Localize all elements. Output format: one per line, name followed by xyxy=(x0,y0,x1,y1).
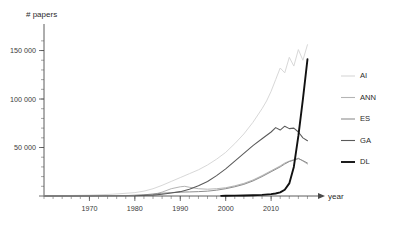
series-paths xyxy=(44,45,307,196)
legend-label-dl: DL xyxy=(360,157,370,166)
legend-label-es: ES xyxy=(360,114,370,123)
legend-label-ann: ANN xyxy=(360,93,376,102)
x-tick-label: 2010 xyxy=(263,204,279,213)
chart-container: # papers 50 000100 000150 000 1970198019… xyxy=(0,0,407,228)
series-line-ann xyxy=(44,158,307,196)
y-axis-title: # papers xyxy=(26,10,57,19)
legend-label-ga: GA xyxy=(360,136,372,145)
papers-per-year-line-chart: # papers 50 000100 000150 000 1970198019… xyxy=(0,0,407,228)
series-line-es xyxy=(44,159,307,196)
y-tick-label: 50 000 xyxy=(14,143,36,152)
x-tick-label: 2000 xyxy=(218,204,234,213)
x-tick-label: 1990 xyxy=(172,204,188,213)
series-line-ga xyxy=(44,126,307,196)
y-axis-major-ticks xyxy=(39,51,44,196)
x-axis-tick-labels: 19701980199020002010 xyxy=(81,204,279,213)
chart-legend: AIANNESGADL xyxy=(341,71,376,166)
legend-label-ai: AI xyxy=(360,71,367,80)
x-tick-label: 1980 xyxy=(127,204,143,213)
x-axis-arrow xyxy=(318,193,325,199)
y-tick-label: 150 000 xyxy=(10,46,36,55)
y-axis-tick-labels: 50 000100 000150 000 xyxy=(10,46,36,152)
y-tick-label: 100 000 xyxy=(10,95,36,104)
x-tick-label: 1970 xyxy=(81,204,97,213)
x-axis-title: year xyxy=(328,192,344,201)
